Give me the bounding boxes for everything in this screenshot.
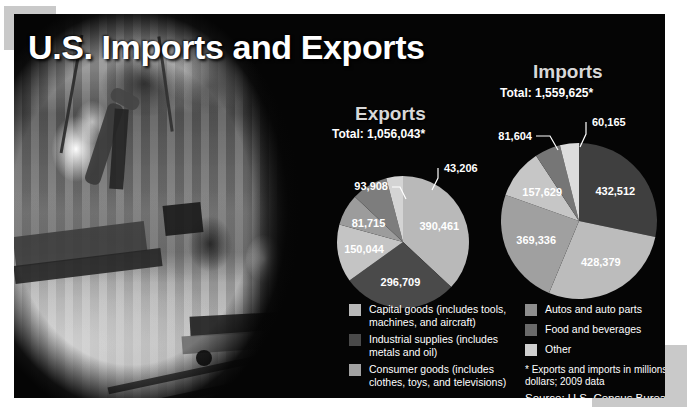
exports-value-label-1: 296,709 (381, 276, 421, 288)
imports-chart-title: Imports (533, 61, 603, 83)
legend-label-autos: Autos and auto parts (545, 303, 642, 316)
imports-value-label-2: 369,336 (516, 234, 556, 246)
main-black-panel: U.S. Imports and Exports Exports Total: … (14, 14, 665, 398)
legend-item-capital-goods: Capital goods (includes tools, machines,… (349, 303, 514, 328)
imports-value-label-1: 428,379 (581, 256, 621, 268)
legend-item-food: Food and beverages (525, 323, 665, 336)
legend-label-other: Other (545, 343, 571, 356)
legend-label-capital-goods: Capital goods (includes tools, machines,… (369, 303, 514, 328)
exports-chart-title: Exports (355, 103, 426, 125)
exports-label-93908: 93,908 (354, 180, 388, 192)
legend-swatch-autos (525, 304, 537, 316)
legend-swatch-capital-goods (349, 304, 361, 316)
legend-swatch-other (525, 344, 537, 356)
exports-value-label-3: 81,715 (352, 217, 386, 229)
exports-label-43206: 43,206 (444, 162, 478, 174)
imports-label-81604: 81,604 (498, 130, 533, 142)
page-title: U.S. Imports and Exports (28, 28, 425, 67)
photo-film-crew (14, 14, 314, 398)
exports-legend: Capital goods (includes tools, machines,… (349, 303, 514, 393)
legend-label-food: Food and beverages (545, 323, 641, 336)
legend-item-autos: Autos and auto parts (525, 303, 665, 316)
legend-item-other: Other (525, 343, 665, 356)
exports-total-label: Total: 1,056,043* (332, 127, 425, 141)
legend-item-industrial-supplies: Industrial supplies (includes metals and… (349, 333, 514, 358)
imports-total-label: Total: 1,559,625* (500, 86, 593, 100)
imports-value-label-0: 432,512 (595, 185, 635, 197)
imports-pie-chart: 432,512428,379369,336157,629 81,604 60,1… (474, 114, 665, 309)
legend-swatch-industrial-supplies (349, 334, 361, 346)
legend-swatch-food (525, 324, 537, 336)
legend-item-consumer-goods: Consumer goods (includes clothes, toys, … (349, 363, 514, 388)
photo-right-fade (246, 14, 314, 398)
imports-label-60165: 60,165 (592, 116, 626, 128)
imports-legend: Autos and auto parts Food and beverages … (525, 303, 665, 363)
legend-label-consumer-goods: Consumer goods (includes clothes, toys, … (369, 363, 514, 388)
exports-value-label-0: 390,461 (419, 220, 459, 232)
imports-value-label-3: 157,629 (522, 186, 562, 198)
exports-pie-chart: 390,461296,709150,04481,715 93,908 43,20… (314, 154, 489, 314)
footnote: * Exports and imports in millions of dol… (525, 364, 665, 388)
infographic-root: U.S. Imports and Exports Exports Total: … (0, 0, 691, 414)
imports-pie-slices (501, 143, 657, 299)
source-credit: Source: U.S. Census Bureau (525, 392, 665, 398)
exports-value-label-2: 150,044 (344, 243, 385, 255)
legend-swatch-consumer-goods (349, 364, 361, 376)
legend-label-industrial-supplies: Industrial supplies (includes metals and… (369, 333, 514, 358)
